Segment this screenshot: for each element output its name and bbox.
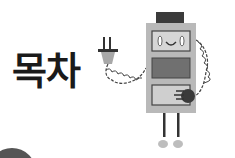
plug-icon [98, 37, 118, 64]
robot-cap [156, 12, 184, 24]
robot-foot-right [173, 140, 183, 148]
robot-middle-panel [152, 58, 190, 78]
robot-foot-left [158, 140, 168, 148]
robot-illustration [0, 0, 235, 158]
